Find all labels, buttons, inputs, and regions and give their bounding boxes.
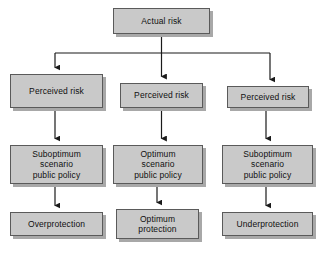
node-actual-risk-label: Actual risk <box>116 16 207 27</box>
node-outcome-overprotection-label: Overprotection <box>13 219 100 230</box>
node-outcome-overprotection: Overprotection <box>10 212 103 236</box>
node-perceived-risk-center: Perceived risk <box>120 83 203 108</box>
node-perceived-risk-center-label: Perceived risk <box>123 90 200 101</box>
node-outcome-underprotection-label: Underprotection <box>225 219 310 230</box>
node-policy-center-label: Optimum scenario public policy <box>116 149 200 181</box>
node-perceived-risk-left-label: Perceived risk <box>13 86 100 97</box>
node-outcome-optimum-protection: Optimum protection <box>116 209 199 239</box>
node-policy-left: Suboptimum scenario public policy <box>10 145 103 184</box>
node-perceived-risk-left: Perceived risk <box>10 74 103 108</box>
node-actual-risk: Actual risk <box>113 8 210 34</box>
node-policy-left-label: Suboptimum scenario public policy <box>13 149 100 181</box>
node-perceived-risk-right: Perceived risk <box>227 86 309 108</box>
node-outcome-underprotection: Underprotection <box>222 212 313 236</box>
risk-policy-flowchart: Actual risk Perceived risk Perceived ris… <box>0 0 327 262</box>
node-outcome-optimum-protection-label: Optimum protection <box>119 214 196 235</box>
node-policy-right-label: Suboptimum scenario public policy <box>225 149 310 181</box>
node-policy-right: Suboptimum scenario public policy <box>222 145 313 184</box>
node-perceived-risk-right-label: Perceived risk <box>230 92 306 103</box>
node-policy-center: Optimum scenario public policy <box>113 145 203 184</box>
